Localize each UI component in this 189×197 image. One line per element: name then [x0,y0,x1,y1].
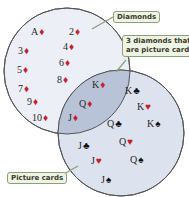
card-5-diamonds: 5♦ [17,65,28,75]
card-q-spades: Q♠ [130,155,144,165]
intersection-label: 3 diamonds that are picture cards [122,35,189,57]
club-icon: ♣ [115,118,122,129]
intersection-label-line1: 3 diamonds that [126,37,189,46]
card-9-diamonds: 9♦ [27,97,38,107]
picture-cards-label: Picture cards [7,172,67,184]
card-q-hearts: Q♥ [119,137,133,147]
diamond-icon: ♦ [69,41,74,52]
diamond-icon: ♦ [33,96,38,107]
heart-icon: ♥ [145,101,151,112]
spade-icon: ♠ [138,154,143,165]
card-3-diamonds: 3♦ [18,46,29,56]
card-k-diamonds: K♦ [92,80,105,90]
diamond-icon: ♦ [100,79,105,90]
card-k-clubs: K♣ [125,86,140,96]
card-4-diamonds: 4♦ [63,42,74,52]
diamond-icon: ♦ [24,45,29,56]
card-q-diamonds: Q♦ [79,99,92,109]
card-8-diamonds: 8♦ [57,75,68,85]
card-7-diamonds: 7♦ [18,84,29,94]
club-icon: ♣ [83,140,90,151]
diamond-icon: ♦ [23,64,28,75]
card-j-spades: J♠ [101,175,111,185]
diamond-icon: ♦ [24,83,29,94]
heart-icon: ♥ [96,155,102,166]
club-icon: ♣ [133,85,140,96]
diamond-icon: ♦ [87,98,92,109]
diamond-icon: ♦ [75,26,80,37]
card-10-diamonds: 10♦ [32,113,48,123]
spade-icon: ♠ [106,174,111,185]
card-j-hearts: J♥ [91,156,102,166]
card-q-clubs: Q♣ [107,119,122,129]
spade-icon: ♠ [155,118,160,129]
card-j-clubs: J♣ [78,141,89,151]
card-2-diamonds: 2♦ [69,27,80,37]
diamond-icon: ♦ [73,112,78,123]
diamond-icon: ♦ [39,26,44,37]
diamond-icon: ♦ [63,74,68,85]
diamond-icon: ♦ [43,112,48,123]
diamond-icon: ♦ [65,57,70,68]
diamonds-label: Diamonds [113,11,160,23]
card-a-diamonds: A♦ [31,27,44,37]
card-k-hearts: K♥ [137,102,151,112]
card-j-diamonds: J♦ [68,113,78,123]
card-k-spades: K♠ [147,119,161,129]
card-6-diamonds: 6♦ [59,58,70,68]
intersection-label-line2: are picture cards [126,46,189,55]
heart-icon: ♥ [127,136,133,147]
